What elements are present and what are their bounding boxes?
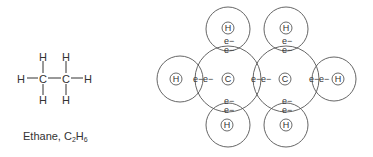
atom-h-left: H	[17, 73, 25, 85]
electron-label: e−	[319, 74, 329, 84]
caption-formula: C2H6	[64, 130, 88, 142]
nucleus-label: H	[283, 120, 290, 130]
hydrogen-top-right-nucleus: H	[280, 22, 292, 34]
atom-h-bottom-left: H	[39, 94, 47, 106]
electron-label: e−	[282, 45, 292, 55]
electron-label: e−	[251, 74, 261, 84]
hydrogen-bottom-right-nucleus: H	[280, 119, 292, 131]
nucleus-label: H	[173, 74, 180, 84]
structural-formula-caption: Ethane, C2H6	[23, 130, 88, 143]
caption-name: Ethane,	[23, 130, 61, 142]
hydrogen-right-nucleus: H	[332, 73, 344, 85]
hydrogen-bottom-left-nucleus: H	[221, 119, 233, 131]
electron-label: e−	[282, 105, 292, 115]
nucleus-label: C	[225, 74, 232, 84]
electron-label: e−	[309, 74, 319, 84]
carbon-right-nucleus: C	[279, 73, 291, 85]
electron-label: e−	[224, 45, 234, 55]
hydrogen-top-left-nucleus: H	[222, 22, 234, 34]
nucleus-label: C	[282, 74, 289, 84]
atom-h-top-right: H	[62, 51, 70, 63]
nucleus-label: H	[335, 74, 342, 84]
atom-h-bottom-right: H	[62, 94, 70, 106]
nucleus-label: H	[224, 120, 231, 130]
atom-h-top-left: H	[39, 51, 47, 63]
electron-label: e−	[261, 74, 271, 84]
orbital-overlap-diagram: CCHHHHHHe−e−e−e−e−e−e−e−e−e−e−e−e−e−	[157, 7, 356, 147]
atom-c-left: C	[39, 73, 47, 85]
structural-formula: HHHCCHHH	[17, 51, 92, 106]
nucleus-label: H	[283, 23, 290, 33]
electron-label: e−	[193, 74, 203, 84]
electron-label: e−	[224, 105, 234, 115]
carbon-left-nucleus: C	[222, 73, 234, 85]
atom-h-right: H	[84, 73, 92, 85]
nucleus-label: H	[225, 23, 232, 33]
hydrogen-left-nucleus: H	[170, 73, 182, 85]
electron-label: e−	[203, 74, 213, 84]
atom-c-right: C	[62, 73, 70, 85]
